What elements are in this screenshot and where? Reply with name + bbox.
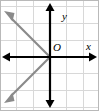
x-axis-label: x bbox=[85, 40, 91, 52]
coordinate-plane-canvas: y x O bbox=[0, 0, 99, 111]
coordinate-plane-figure: y x O bbox=[0, 0, 99, 111]
origin-label: O bbox=[53, 41, 61, 53]
y-axis-label: y bbox=[61, 10, 67, 22]
